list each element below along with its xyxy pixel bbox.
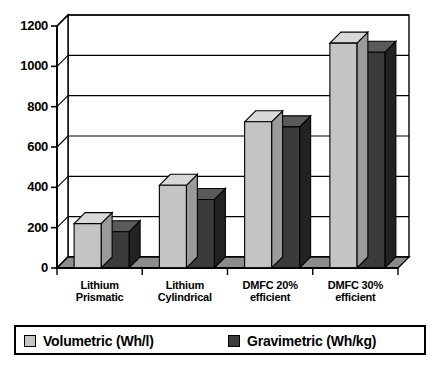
legend-swatch-volumetric-icon <box>24 335 36 347</box>
category-label-line: Lithium <box>142 279 227 291</box>
category-label-line: DMFC 20% <box>228 279 313 291</box>
bar-side-face <box>272 111 283 268</box>
legend-label-gravimetric: Gravimetric (Wh/kg) <box>247 333 376 349</box>
bar-front-face <box>159 185 186 268</box>
bar-side-face <box>214 188 225 268</box>
bar <box>159 174 197 268</box>
x-axis-category-label: LithiumPrismatic <box>57 279 142 303</box>
category-label-line: efficient <box>313 291 398 303</box>
legend-label-volumetric: Volumetric (Wh/l) <box>43 333 154 349</box>
y-axis-tick-label: 800 <box>8 99 48 114</box>
y-axis-tick-label: 0 <box>8 260 48 275</box>
bar <box>330 32 368 268</box>
chart-plot-area <box>0 0 447 365</box>
x-axis-ticks <box>57 268 398 275</box>
category-label-line: Prismatic <box>57 291 142 303</box>
bar-front-face <box>245 122 272 268</box>
chart-legend: Volumetric (Wh/l) Gravimetric (Wh/kg) <box>14 325 426 355</box>
category-label-line: efficient <box>228 291 313 303</box>
category-label-line: DMFC 30% <box>313 279 398 291</box>
bar-chart: 020040060080010001200 LithiumPrismaticLi… <box>0 0 447 365</box>
legend-item-gravimetric[interactable]: Gravimetric (Wh/kg) <box>228 331 376 351</box>
y-axis-tick-label: 600 <box>8 139 48 154</box>
y-axis-tick-label: 400 <box>8 179 48 194</box>
bar-side-face <box>186 174 197 268</box>
legend-item-volumetric[interactable]: Volumetric (Wh/l) <box>24 331 154 351</box>
bar <box>245 111 283 268</box>
x-axis-category-label: DMFC 30%efficient <box>313 279 398 303</box>
x-axis-category-label: DMFC 20%efficient <box>228 279 313 303</box>
bar-side-face <box>385 41 396 268</box>
bar-side-face <box>300 116 311 268</box>
category-label-line: Cylindrical <box>142 291 227 303</box>
y-axis-tick-label: 200 <box>8 220 48 235</box>
bar-side-face <box>357 32 368 268</box>
legend-swatch-gravimetric-icon <box>228 335 240 347</box>
bar-front-face <box>74 224 101 268</box>
y-axis-tick-label: 1000 <box>8 58 48 73</box>
category-label-line: Lithium <box>57 279 142 291</box>
bar-front-face <box>330 43 357 268</box>
bar <box>74 213 112 268</box>
x-axis-category-label: LithiumCylindrical <box>142 279 227 303</box>
y-axis-tick-label: 1200 <box>8 18 48 33</box>
